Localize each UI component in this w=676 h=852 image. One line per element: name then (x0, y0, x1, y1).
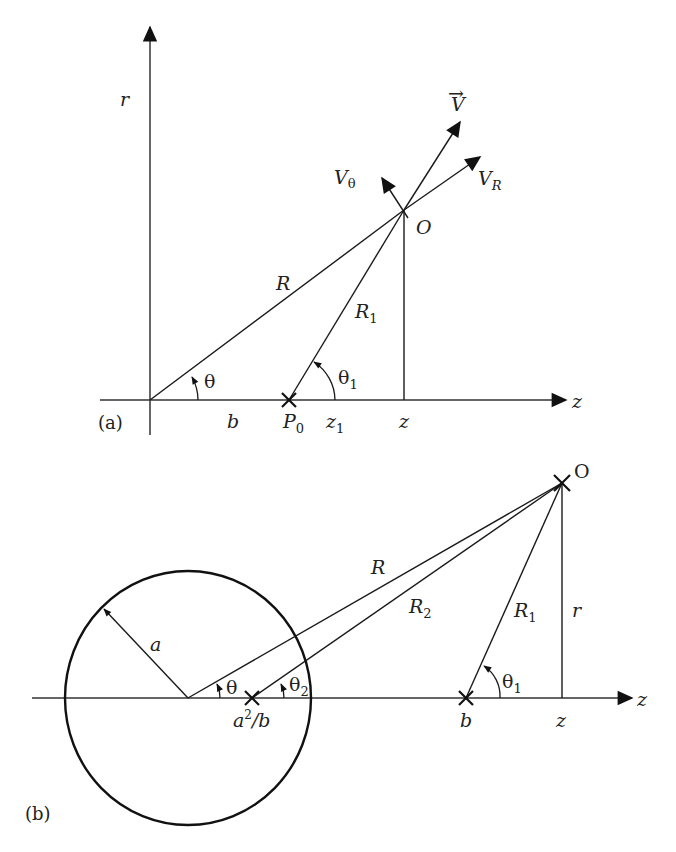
R1-label-b: R1 (513, 599, 537, 625)
panel-a-caption: (a) (98, 412, 123, 433)
R-label: R (275, 272, 290, 294)
radius-a-line (104, 609, 188, 698)
panel-b-caption: (b) (25, 803, 51, 824)
z-axis-label-b: z (636, 688, 648, 710)
R1-label: R1 (354, 300, 378, 326)
panel-b: O z a R R2 R1 r θ θ2 θ1 a2/b b z (b) (25, 460, 648, 825)
theta1-arc-b (484, 666, 500, 698)
z-axis-label: z (571, 390, 583, 412)
z-position-label-b: z (555, 709, 567, 731)
V-theta-label: Vθ (334, 166, 356, 191)
theta-arc-b (217, 684, 220, 698)
theta1-arc (314, 362, 335, 400)
theta-label-b: θ (226, 676, 237, 698)
R2-line (252, 483, 562, 698)
point-O-label-b: O (574, 460, 590, 482)
image-point-label: a2/b (233, 708, 271, 731)
b-label: b (227, 410, 239, 432)
theta-label: θ (204, 370, 215, 392)
figure-canvas: r z O V → Vθ VR R R1 θ θ1 b P0 z1 z (a) (0, 0, 676, 852)
P0-label: P0 (282, 410, 304, 436)
V-vector (404, 122, 460, 210)
theta2-arc (281, 684, 284, 698)
V-label: V → (448, 82, 467, 115)
R1-line-b (466, 483, 562, 698)
R-line-b (188, 483, 562, 698)
R2-label: R2 (408, 595, 432, 621)
r-axis-label: r (120, 88, 131, 110)
R-label-b: R (370, 556, 385, 578)
V-R-label: VR (478, 167, 502, 193)
theta1-label: θ1 (338, 366, 358, 392)
theta1-label-b: θ1 (502, 670, 522, 696)
r-label-b: r (572, 599, 583, 621)
point-O-label: O (416, 216, 432, 238)
z1-label: z1 (325, 410, 344, 436)
panel-a: r z O V → Vθ VR R R1 θ θ1 b P0 z1 z (a) (98, 27, 583, 436)
z-position-label: z (398, 410, 410, 432)
theta2-label: θ2 (289, 673, 309, 699)
VR-vector (404, 157, 480, 210)
theta-arc (192, 377, 198, 400)
radius-a-label: a (150, 633, 161, 655)
Vtheta-vector (382, 178, 408, 218)
vector-accent-icon: → (448, 82, 464, 104)
b-label-b: b (460, 709, 472, 731)
